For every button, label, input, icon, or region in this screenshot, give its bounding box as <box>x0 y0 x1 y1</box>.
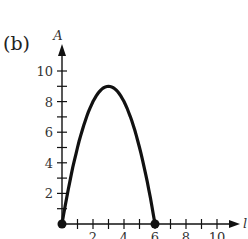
x-tick-label: 10 <box>209 230 226 239</box>
x-tick-label: 6 <box>151 230 159 239</box>
x-tick-label: 4 <box>120 230 128 239</box>
endpoint-dot <box>151 220 160 229</box>
x-tick-label: 2 <box>89 230 97 239</box>
y-tick-label: 10 <box>36 64 53 79</box>
y-tick-label: 6 <box>45 125 53 140</box>
endpoint-dot <box>58 220 67 229</box>
area-chart: lA 246810246810 <box>0 0 248 239</box>
y-axis-label: A <box>52 28 62 43</box>
area-curve <box>62 86 155 224</box>
y-tick-label: 4 <box>45 156 53 171</box>
x-tick-label: 8 <box>182 230 190 239</box>
x-axis-label: l <box>243 216 247 231</box>
y-tick-label: 8 <box>45 95 53 110</box>
y-tick-label: 2 <box>45 186 53 201</box>
y-axis-arrow-icon <box>58 44 66 56</box>
x-axis-arrow-icon <box>229 220 240 228</box>
